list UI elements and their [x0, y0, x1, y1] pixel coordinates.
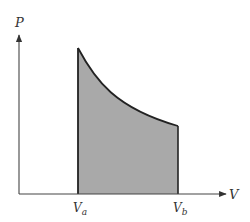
vb-label-sub: b [182, 207, 188, 217]
v-axis-label: V [229, 187, 240, 202]
vb-label: Vb [173, 201, 188, 217]
pv-diagram: P V Va Vb [0, 0, 250, 222]
va-label: Va [73, 201, 87, 217]
p-axis-label: P [14, 15, 24, 30]
va-label-sub: a [82, 207, 87, 217]
